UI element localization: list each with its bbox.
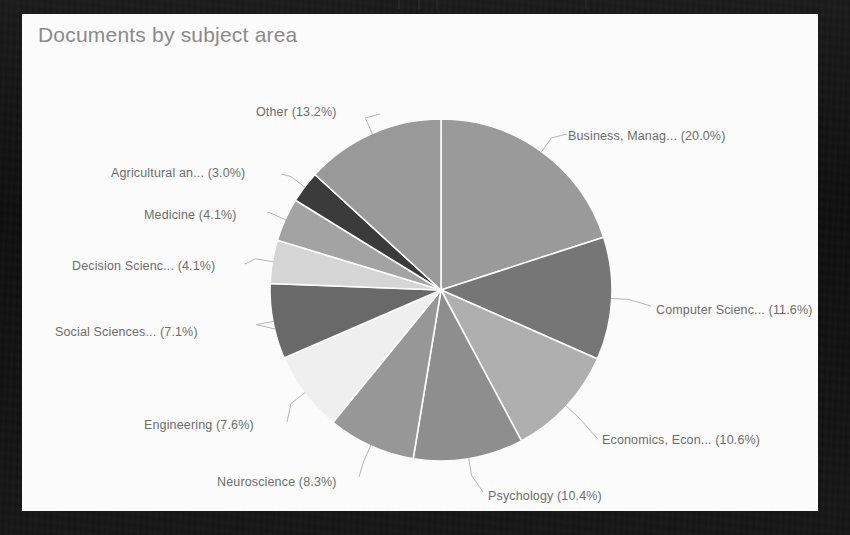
- pie-leader-line: [256, 321, 275, 329]
- pie-label-engineering: Engineering (7.6%): [144, 418, 254, 432]
- pie-label-psychology: Psychology (10.4%): [488, 489, 602, 503]
- pie-leader-line: [566, 406, 597, 438]
- pie-label-decision-science: Decision Scienc... (4.1%): [72, 259, 215, 273]
- pie-leader-line: [267, 213, 286, 220]
- pie-leader-line: [287, 393, 305, 423]
- pie-leader-line: [469, 458, 483, 492]
- pie-label-agricultural: Agricultural an... (3.0%): [111, 166, 245, 180]
- pie-label-neuroscience: Neuroscience (8.3%): [217, 475, 337, 489]
- pie-leader-line: [541, 134, 567, 153]
- screenshot-root: Documents by subject area Business, Mana…: [0, 0, 850, 535]
- chart-card: Documents by subject area Business, Mana…: [22, 14, 818, 511]
- pie-label-computer-science: Computer Scienc... (11.6%): [656, 303, 813, 317]
- pie-label-medicine: Medicine (4.1%): [144, 208, 237, 222]
- pie-label-other: Other (13.2%): [256, 105, 336, 119]
- pie-label-social-sciences: Social Sciences... (7.1%): [55, 325, 198, 339]
- pie-leader-line: [611, 299, 651, 307]
- pie-label-economics: Economics, Econ... (10.6%): [602, 433, 760, 447]
- pie-leader-line: [281, 174, 305, 188]
- pie-slice-group: [270, 119, 612, 461]
- pie-leader-line: [359, 445, 371, 477]
- pie-chart-plot-area[interactable]: Business, Manag... (20.0%) Computer Scie…: [22, 14, 818, 511]
- pie-label-business: Business, Manag... (20.0%): [568, 129, 725, 143]
- pie-leader-line: [245, 259, 273, 264]
